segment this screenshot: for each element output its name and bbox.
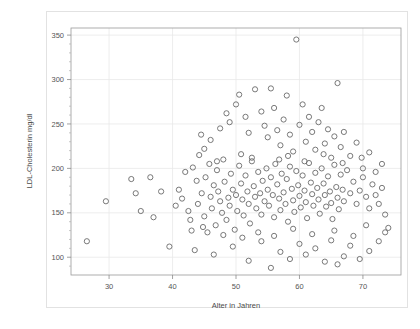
y-axis-title: LDL-Cholesterin mg/dl bbox=[25, 113, 34, 188]
svg-text:100: 100 bbox=[51, 253, 64, 262]
y-axis-ticks bbox=[67, 35, 71, 257]
svg-text:150: 150 bbox=[51, 208, 64, 217]
x-axis-title: Alter in Jahren bbox=[212, 301, 260, 310]
svg-text:200: 200 bbox=[51, 164, 64, 173]
y-axis-tick-labels: 100150200250300350 bbox=[51, 31, 64, 262]
svg-text:300: 300 bbox=[51, 75, 64, 84]
svg-text:50: 50 bbox=[232, 282, 240, 291]
svg-text:60: 60 bbox=[295, 282, 303, 291]
x-axis-tick-labels: 3040506070 bbox=[105, 282, 367, 291]
svg-text:40: 40 bbox=[168, 282, 176, 291]
svg-text:250: 250 bbox=[51, 120, 64, 129]
svg-text:70: 70 bbox=[359, 282, 367, 291]
svg-text:350: 350 bbox=[51, 31, 64, 40]
x-axis-ticks bbox=[109, 275, 363, 279]
scatter-chart-figure: 3040506070 100150200250300350 Alter in J… bbox=[0, 0, 420, 329]
scatter-data-points bbox=[84, 37, 391, 271]
svg-text:30: 30 bbox=[105, 282, 113, 291]
scatter-plot-canvas: 3040506070 100150200250300350 Alter in J… bbox=[0, 0, 420, 329]
